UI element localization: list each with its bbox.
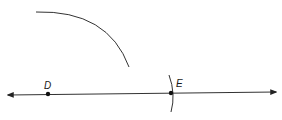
- point-d: [46, 92, 50, 96]
- construction-diagram: D E: [0, 0, 282, 120]
- large-arc: [36, 12, 129, 67]
- diagram-svg: D E: [0, 0, 282, 120]
- point-e: [169, 91, 173, 95]
- label-d: D: [44, 80, 51, 91]
- label-e: E: [176, 78, 183, 89]
